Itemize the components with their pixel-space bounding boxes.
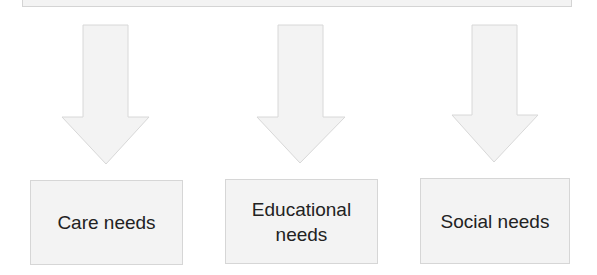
down-arrow-icon [452, 25, 538, 162]
social-needs-label: Social needs [441, 209, 550, 234]
educational-needs-box: Educational needs [225, 179, 378, 264]
down-arrow-icon [62, 25, 149, 164]
care-needs-box: Care needs [30, 180, 183, 265]
down-arrow-icon [257, 25, 345, 163]
social-needs-box: Social needs [420, 178, 570, 264]
educational-needs-label: Educational needs [252, 197, 351, 247]
care-needs-label: Care needs [57, 210, 155, 235]
